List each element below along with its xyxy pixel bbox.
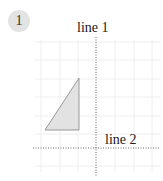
- grid: [35, 40, 160, 172]
- line-2-label: line 2: [105, 132, 137, 147]
- triangle-shape: [45, 78, 79, 130]
- reflection-diagram: line 1 line 2: [0, 0, 163, 181]
- line-1-label: line 1: [77, 20, 109, 35]
